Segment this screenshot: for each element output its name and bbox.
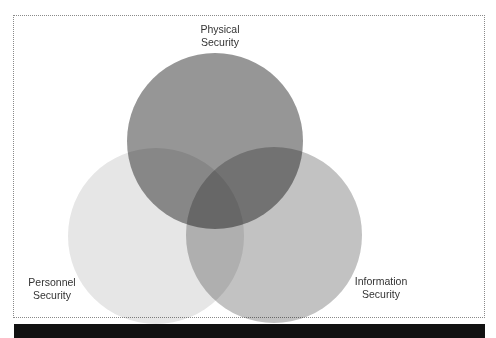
personnel-label-line2: Security bbox=[22, 289, 82, 302]
bottom-bar bbox=[14, 324, 485, 338]
information-label-line2: Security bbox=[346, 288, 416, 301]
physical-security-circle bbox=[127, 53, 303, 229]
information-security-label: Information Security bbox=[346, 275, 416, 301]
personnel-label-line1: Personnel bbox=[22, 276, 82, 289]
physical-label-line1: Physical bbox=[190, 23, 250, 36]
physical-label-line2: Security bbox=[190, 36, 250, 49]
physical-security-label: Physical Security bbox=[190, 23, 250, 49]
personnel-security-label: Personnel Security bbox=[22, 276, 82, 302]
information-label-line1: Information bbox=[346, 275, 416, 288]
